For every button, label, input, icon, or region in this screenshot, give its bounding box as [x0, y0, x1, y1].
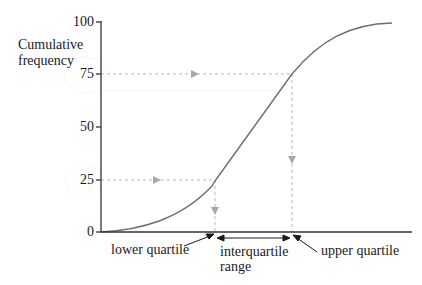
guide-arrowheads [153, 70, 296, 215]
upper-quartile-label: upper quartile [321, 243, 399, 258]
arrowhead-icon [217, 235, 224, 241]
arrowhead-icon [206, 234, 214, 239]
arrow-right-icon [153, 176, 161, 184]
tick-label-25: 25 [64, 173, 94, 187]
iqr-label: interquartile range [220, 244, 288, 274]
tick-label-0: 0 [64, 225, 94, 239]
lower-quartile-label: lower quartile [111, 242, 189, 257]
iqr-label-line2: range [220, 259, 288, 274]
arrow-down-icon [211, 207, 219, 215]
y-axis-label-line1: Cumulative [18, 37, 83, 53]
iqr-label-line1: interquartile [220, 244, 288, 259]
y-axis-label: Cumulative frequency [18, 37, 83, 69]
tick-label-75: 75 [64, 67, 94, 81]
tick-label-100: 100 [64, 15, 94, 29]
arrow-down-icon [288, 156, 296, 164]
arrow-right-icon [191, 70, 199, 78]
ogive-curve [101, 23, 392, 232]
arrowhead-icon [283, 235, 290, 241]
quartile-guides [101, 74, 292, 232]
tick-label-50: 50 [64, 120, 94, 134]
